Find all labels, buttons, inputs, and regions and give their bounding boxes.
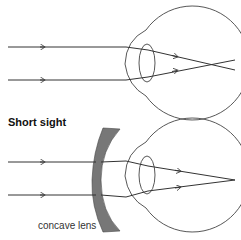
concave-lens (92, 128, 120, 232)
eye-corrected (125, 118, 241, 232)
light-rays-uncorrected (8, 47, 235, 80)
diagram-title-short-sight: Short sight (8, 116, 66, 128)
eye-uncorrected (125, 6, 241, 120)
concave-lens-label: concave lens (38, 220, 96, 231)
light-rays-corrected (8, 161, 235, 197)
